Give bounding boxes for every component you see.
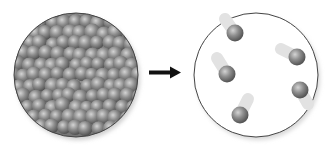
particle: [126, 120, 142, 136]
particle: [3, 26, 19, 42]
sparse-particles-panel: [194, 13, 320, 140]
transition-arrow: [149, 67, 181, 79]
packed-particles-panel: [3, 3, 153, 140]
particle: [15, 4, 30, 19]
particle: [232, 107, 249, 124]
particle: [289, 49, 306, 66]
particle: [11, 121, 25, 135]
arrow-head-icon: [170, 67, 181, 79]
particle: [5, 5, 19, 19]
container-circle: [194, 13, 318, 137]
particle: [107, 4, 122, 19]
particle: [133, 5, 148, 20]
particle: [138, 57, 153, 72]
arrow-shaft: [149, 71, 171, 75]
packed-particles: [3, 3, 153, 136]
particle: [131, 110, 146, 125]
particle: [136, 119, 152, 135]
particle: [10, 15, 24, 29]
particle: [90, 36, 104, 50]
particle: [78, 121, 93, 136]
particle: [227, 25, 244, 42]
particle: [137, 35, 153, 51]
particle: [38, 3, 54, 19]
particle: [44, 119, 59, 134]
particle: [22, 15, 37, 30]
particle: [26, 5, 41, 20]
particle: [136, 16, 150, 30]
particle: [3, 109, 18, 124]
particle: [292, 82, 309, 99]
particle: [8, 99, 23, 114]
particle: [120, 4, 134, 18]
particle: [125, 15, 140, 30]
particle: [136, 98, 151, 113]
particle: [130, 26, 146, 42]
diagram-canvas: [0, 0, 331, 150]
particle: [219, 66, 236, 83]
